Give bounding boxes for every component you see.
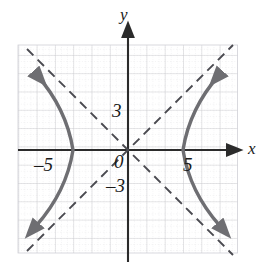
tick-label-y-neg3: –3 [106, 176, 125, 195]
hyperbola-figure: y x 0 3 –3 5 –5 [0, 0, 274, 262]
tick-label-x-neg5: –5 [34, 155, 53, 174]
tick-label-x-5: 5 [183, 155, 193, 174]
tick-label-y-3: 3 [112, 101, 122, 120]
y-axis-label: y [120, 6, 128, 23]
origin-label: 0 [114, 152, 124, 171]
x-axis-label: x [248, 140, 256, 157]
graph-canvas [0, 0, 274, 262]
